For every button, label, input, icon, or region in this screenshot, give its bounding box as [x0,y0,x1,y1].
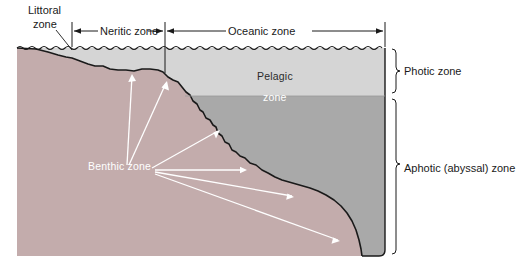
pelagic-zone-label-line1: Pelagic [257,70,293,82]
aphotic-zone-label: Aphotic (abyssal) zone [404,162,515,174]
ocean-zones-diagram: Littoral zone Neritic zone Oceanic zone … [0,0,527,266]
photic-zone-bracket [392,49,400,93]
pelagic-zone-label-line2: zone [263,91,287,103]
photic-zone-label: Photic zone [404,65,461,77]
aphotic-zone-bracket [392,99,400,254]
neritic-zone-label: Neritic zone [100,25,158,37]
oceanic-zone-label: Oceanic zone [228,25,295,37]
littoral-zone-label-line2: zone [33,18,57,30]
littoral-zone-label-line1: Littoral [28,4,61,16]
benthic-zone-label: Benthic zone [88,160,151,172]
